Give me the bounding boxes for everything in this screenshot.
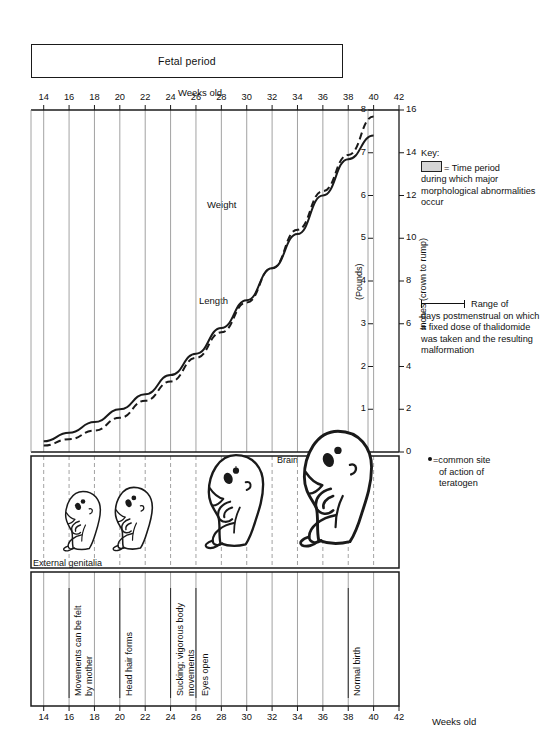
labels-layer: 1414161618182020222224242626282830303232…	[0, 0, 550, 756]
x-tick-label-top-36: 36	[311, 92, 335, 102]
x-tick-label-top-16: 16	[57, 92, 81, 102]
x-tick-label-top-34: 34	[285, 92, 309, 102]
x-tick-label-top-26: 26	[184, 92, 208, 102]
x-tick-label-bottom-40: 40	[362, 712, 386, 722]
x-tick-label-top-22: 22	[133, 92, 157, 102]
y-left-tick-5: 5	[354, 232, 366, 242]
x-tick-label-top-28: 28	[209, 92, 233, 102]
x-tick-label-top-24: 24	[159, 92, 183, 102]
x-tick-label-bottom-28: 28	[209, 712, 233, 722]
x-tick-label-bottom-34: 34	[285, 712, 309, 722]
y-right-tick-2: 2	[406, 403, 411, 413]
x-tick-label-top-42: 42	[387, 92, 411, 102]
y-left-tick-1: 1	[354, 403, 366, 413]
x-tick-label-bottom-14: 14	[32, 712, 56, 722]
milestone-label-38: Normal birth	[352, 647, 362, 696]
x-tick-label-top-32: 32	[260, 92, 284, 102]
x-tick-label-bottom-20: 20	[108, 712, 132, 722]
x-tick-label-bottom-42: 42	[387, 712, 411, 722]
y-right-tick-14: 14	[406, 147, 416, 157]
y-right-tick-8: 8	[406, 275, 411, 285]
x-tick-label-top-38: 38	[336, 92, 360, 102]
y-right-tick-4: 4	[406, 361, 411, 371]
y-left-tick-3: 3	[354, 318, 366, 328]
x-tick-label-bottom-36: 36	[311, 712, 335, 722]
y-right-tick-16: 16	[406, 104, 416, 114]
y-right-tick-12: 12	[406, 190, 416, 200]
y-right-tick-6: 6	[406, 318, 411, 328]
milestone-label-26: Eyes open	[200, 653, 210, 696]
y-left-tick-7: 7	[354, 147, 366, 157]
milestone-label-16-line2: by mother	[84, 656, 94, 696]
x-tick-label-bottom-38: 38	[336, 712, 360, 722]
milestone-label-20: Head hair forms	[124, 632, 134, 696]
y-left-tick-6: 6	[354, 190, 366, 200]
x-tick-label-bottom-32: 32	[260, 712, 284, 722]
x-tick-label-bottom-22: 22	[133, 712, 157, 722]
y-left-tick-8: 8	[354, 104, 366, 114]
y-right-tick-0: 0	[406, 446, 411, 456]
y-left-tick-2: 2	[354, 361, 366, 371]
milestone-label-24-line2: movements	[186, 649, 196, 696]
x-tick-label-bottom-24: 24	[159, 712, 183, 722]
figure-root: Fetal period Weeks old Weeks old (Pounds…	[0, 0, 550, 756]
x-tick-label-top-30: 30	[235, 92, 259, 102]
y-right-tick-10: 10	[406, 232, 416, 242]
x-tick-label-bottom-18: 18	[82, 712, 106, 722]
milestone-label-16: Movements can be felt	[73, 605, 83, 696]
x-tick-label-bottom-26: 26	[184, 712, 208, 722]
x-tick-label-top-14: 14	[32, 92, 56, 102]
milestone-label-24: Sucking; vigorous body	[175, 603, 185, 696]
y-left-tick-4: 4	[354, 275, 366, 285]
x-tick-label-bottom-16: 16	[57, 712, 81, 722]
x-tick-label-top-18: 18	[82, 92, 106, 102]
x-tick-label-top-40: 40	[362, 92, 386, 102]
x-tick-label-top-20: 20	[108, 92, 132, 102]
x-tick-label-bottom-30: 30	[235, 712, 259, 722]
